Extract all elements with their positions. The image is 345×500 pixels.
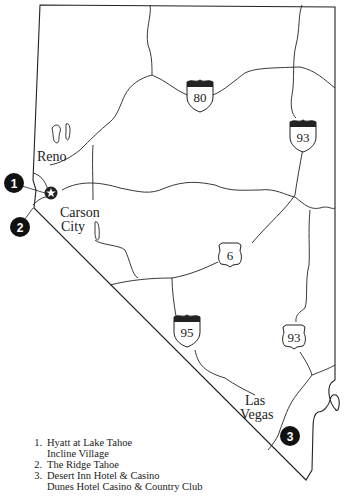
road [152,75,187,95]
marker-3[interactable]: 3 [280,426,300,446]
road [172,278,176,316]
legend-number: 2. [26,459,47,470]
road [110,262,218,285]
svg-text:3: 3 [287,430,294,444]
star-icon [45,187,58,200]
road [147,5,152,75]
nevada-map: Reno Carson City Las Vegas 80 93 6 95 93… [0,0,345,500]
interstate-95-shield: 95 [174,315,200,347]
svg-text:93: 93 [297,130,310,145]
legend: 1. Hyatt at Lake Tahoe Incline Village 2… [26,437,202,492]
road [95,240,138,278]
svg-text:95: 95 [181,325,194,340]
lake [66,124,70,140]
legend-sublabel: Incline Village [26,448,202,459]
interstate-93-shield: 93 [290,120,316,152]
us-93-shield: 93 [283,325,306,349]
legend-number: 3. [26,470,47,481]
svg-text:1: 1 [11,177,18,191]
us-6-shield: 6 [219,243,242,267]
road [62,182,335,208]
road [213,67,335,95]
road [252,148,303,243]
legend-item-2: 2. The Ridge Tahoe [26,459,202,470]
road [296,210,310,322]
svg-text:2: 2 [17,221,24,235]
city-label-reno: Reno [37,149,67,164]
svg-text:80: 80 [194,90,207,105]
legend-number [26,481,47,492]
legend-label: Hyatt at Lake Tahoe [47,437,132,448]
marker-1[interactable]: 1 [4,173,24,193]
lake-near-carson [95,222,99,240]
legend-label: The Ridge Tahoe [47,459,119,470]
legend-label: Dunes Hotel Casino & Country Club [47,481,202,492]
legend-item-1: 1. Hyatt at Lake Tahoe [26,437,202,448]
svg-text:93: 93 [288,330,301,345]
city-label-carson: Carson [60,205,100,220]
legend-item-3b: Dunes Hotel Casino & Country Club [26,481,202,492]
legend-label: Desert Inn Hotel & Casino [47,470,160,481]
marker-2[interactable]: 2 [10,217,30,237]
pyramid-lake [52,125,60,143]
legend-number: 1. [26,437,47,448]
road [291,5,302,118]
interstate-80-shield: 80 [187,80,213,112]
road [195,350,255,395]
legend-item-3: 3. Desert Inn Hotel & Casino [26,470,202,481]
city-label-city: City [61,219,85,234]
city-label-las: Las [245,393,265,408]
road [300,352,335,375]
city-label-vegas: Vegas [240,407,273,422]
svg-text:6: 6 [227,248,234,263]
